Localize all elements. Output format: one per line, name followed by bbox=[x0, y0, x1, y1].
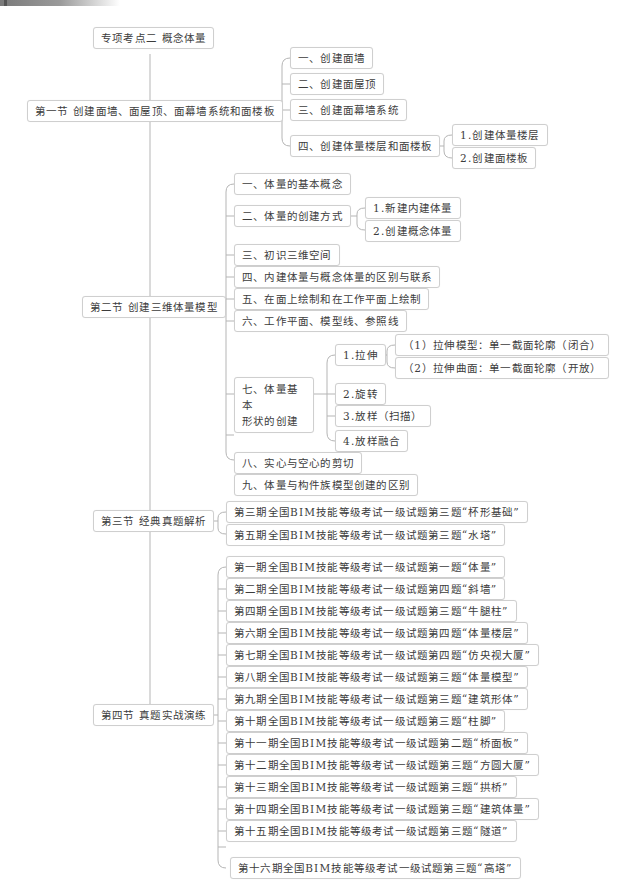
section-1-node: 第一节 创建面墙、面屋顶、面幕墙系统和面楼板 bbox=[27, 100, 283, 122]
s4-item-3-label: 第四期全国BIM技能等级考试一级试题第三题“牛腿柱” bbox=[234, 605, 509, 617]
s2-item-5-label: 五、在面上绘制和在工作平面上绘制 bbox=[242, 293, 421, 305]
s4-item-8-label: 第十期全国BIM技能等级考试一级试题第三题“柱脚” bbox=[234, 715, 497, 727]
s2-item-7-sub-1: 1.拉伸 bbox=[335, 344, 386, 366]
s1-item-4-sub-2-label: 2.创建面楼板 bbox=[460, 152, 528, 164]
s2-item-7-sub-1-b-label: （2）拉伸曲面：单一截面轮廓（开放） bbox=[403, 362, 601, 374]
s1-item-4-sub-2: 2.创建面楼板 bbox=[452, 147, 536, 169]
s4-item-6-label: 第八期全国BIM技能等级考试一级试题第三题“体量模型” bbox=[234, 671, 520, 683]
s4-item-4-label: 第六期全国BIM技能等级考试一级试题第四题“体量楼层” bbox=[234, 627, 520, 639]
s2-item-5: 五、在面上绘制和在工作平面上绘制 bbox=[234, 288, 429, 310]
section-2-node: 第二节 创建三维体量模型 bbox=[82, 296, 226, 318]
s2-item-7-sub-1-a: （1）拉伸模型：单一截面轮廓（闭合） bbox=[395, 334, 609, 356]
s4-item-12-label: 第十四期全国BIM技能等级考试一级试题第三题“建筑体量” bbox=[234, 803, 531, 815]
s2-item-7-label-line2: 形状的创建 bbox=[242, 413, 306, 429]
section-2-label: 第二节 创建三维体量模型 bbox=[90, 301, 218, 313]
s3-item-2: 第五期全国BIM技能等级考试一级试题第三题“水塔” bbox=[226, 524, 505, 546]
s1-item-4-sub-1-label: 1.创建体量楼层 bbox=[460, 129, 540, 141]
s4-item-13: 第十五期全国BIM技能等级考试一级试题第三题“隧道” bbox=[226, 820, 517, 842]
s3-item-1: 第三期全国BIM技能等级考试一级试题第三题“杯形基础” bbox=[226, 501, 528, 523]
s2-item-7-sub-3: 3.放样（扫描） bbox=[335, 405, 431, 427]
s2-item-2-sub-2-label: 2.创建概念体量 bbox=[373, 225, 453, 237]
s2-item-7-sub-1-a-label: （1）拉伸模型：单一截面轮廓（闭合） bbox=[403, 339, 601, 351]
s4-item-6: 第八期全国BIM技能等级考试一级试题第三题“体量模型” bbox=[226, 666, 528, 688]
s4-item-12: 第十四期全国BIM技能等级考试一级试题第三题“建筑体量” bbox=[226, 798, 539, 820]
s4-item-8: 第十期全国BIM技能等级考试一级试题第三题“柱脚” bbox=[226, 710, 505, 732]
s4-item-13-label: 第十五期全国BIM技能等级考试一级试题第三题“隧道” bbox=[234, 825, 509, 837]
section-4-node: 第四节 真题实战演练 bbox=[93, 704, 214, 726]
s4-item-7: 第九期全国BIM技能等级考试一级试题第三题“建筑形体” bbox=[226, 688, 528, 710]
s2-item-2-sub-2: 2.创建概念体量 bbox=[365, 220, 461, 242]
s4-item-14-label: 第十六期全国BIM技能等级考试一级试题第三题“高塔” bbox=[238, 862, 513, 874]
s2-item-2-sub-1-label: 1.新建内建体量 bbox=[373, 202, 453, 214]
s2-item-6: 六、工作平面、模型线、参照线 bbox=[234, 310, 407, 332]
s4-item-7-label: 第九期全国BIM技能等级考试一级试题第三题“建筑形体” bbox=[234, 693, 520, 705]
s4-item-4: 第六期全国BIM技能等级考试一级试题第四题“体量楼层” bbox=[226, 622, 528, 644]
s4-item-14: 第十六期全国BIM技能等级考试一级试题第三题“高塔” bbox=[230, 857, 521, 879]
s4-item-10: 第十二期全国BIM技能等级考试一级试题第三题“方圆大厦” bbox=[226, 754, 539, 776]
s2-item-7-sub-2-label: 2.旋转 bbox=[343, 388, 378, 400]
s4-item-2: 第二期全国BIM技能等级考试一级试题第四题“斜墙” bbox=[226, 578, 505, 600]
s1-item-4-label: 四、创建体量楼层和面楼板 bbox=[298, 140, 432, 152]
s2-item-7-sub-4-label: 4.放样融合 bbox=[343, 435, 400, 447]
s2-item-1-label: 一、体量的基本概念 bbox=[242, 178, 343, 190]
section-3-label: 第三节 经典真题解析 bbox=[101, 515, 206, 527]
s4-item-3: 第四期全国BIM技能等级考试一级试题第三题“牛腿柱” bbox=[226, 600, 517, 622]
s2-item-9: 九、体量与构件族模型创建的区别 bbox=[234, 474, 418, 496]
section-4-label: 第四节 真题实战演练 bbox=[101, 709, 206, 721]
s2-item-7: 七、体量基本 形状的创建 bbox=[234, 377, 314, 433]
s2-item-7-label-line1: 七、体量基本 bbox=[242, 381, 306, 413]
s2-item-7-sub-4: 4.放样融合 bbox=[335, 430, 408, 452]
s2-item-8-label: 八、实心与空心的剪切 bbox=[242, 457, 354, 469]
s4-item-5-label: 第七期全国BIM技能等级考试一级试题第四题“仿央视大厦” bbox=[234, 649, 531, 661]
s1-item-1-label: 一、创建面墙 bbox=[298, 52, 365, 64]
s2-item-3-label: 三、初识三维空间 bbox=[242, 249, 332, 261]
s2-item-1: 一、体量的基本概念 bbox=[234, 173, 351, 195]
root-node: 专项考点二 概念体量 bbox=[93, 27, 214, 49]
s2-item-2-label: 二、体量的创建方式 bbox=[242, 210, 343, 222]
s1-item-4: 四、创建体量楼层和面楼板 bbox=[290, 135, 440, 157]
s4-item-11-label: 第十三期全国BIM技能等级考试一级试题第三题“拱桥” bbox=[234, 781, 509, 793]
s2-item-7-sub-1-label: 1.拉伸 bbox=[343, 349, 378, 361]
s4-item-2-label: 第二期全国BIM技能等级考试一级试题第四题“斜墙” bbox=[234, 583, 497, 595]
root-label: 专项考点二 概念体量 bbox=[101, 32, 206, 44]
s4-item-9-label: 第十一期全国BIM技能等级考试一级试题第二题“桥面板” bbox=[234, 737, 520, 749]
s2-item-4: 四、内建体量与概念体量的区别与联系 bbox=[234, 266, 440, 288]
s2-item-2-sub-1: 1.新建内建体量 bbox=[365, 197, 461, 219]
s4-item-1: 第一期全国BIM技能等级考试一级试题第一题“体量” bbox=[226, 556, 505, 578]
s2-item-7-sub-1-b: （2）拉伸曲面：单一截面轮廓（开放） bbox=[395, 357, 609, 379]
s4-item-9: 第十一期全国BIM技能等级考试一级试题第二题“桥面板” bbox=[226, 732, 528, 754]
s2-item-7-sub-2: 2.旋转 bbox=[335, 383, 386, 405]
s2-item-8: 八、实心与空心的剪切 bbox=[234, 452, 362, 474]
section-1-label: 第一节 创建面墙、面屋顶、面幕墙系统和面楼板 bbox=[35, 105, 275, 117]
s2-item-9-label: 九、体量与构件族模型创建的区别 bbox=[242, 479, 410, 491]
s2-item-4-label: 四、内建体量与概念体量的区别与联系 bbox=[242, 271, 432, 283]
s1-item-1: 一、创建面墙 bbox=[290, 47, 373, 69]
s2-item-2: 二、体量的创建方式 bbox=[234, 205, 351, 227]
s2-item-3: 三、初识三维空间 bbox=[234, 244, 340, 266]
section-3-node: 第三节 经典真题解析 bbox=[93, 510, 214, 532]
s4-item-5: 第七期全国BIM技能等级考试一级试题第四题“仿央视大厦” bbox=[226, 644, 539, 666]
s1-item-3-label: 三、创建面幕墙系统 bbox=[298, 104, 399, 116]
s3-item-2-label: 第五期全国BIM技能等级考试一级试题第三题“水塔” bbox=[234, 529, 497, 541]
s1-item-3: 三、创建面幕墙系统 bbox=[290, 99, 407, 121]
s1-item-2-label: 二、创建面屋顶 bbox=[298, 78, 376, 90]
s3-item-1-label: 第三期全国BIM技能等级考试一级试题第三题“杯形基础” bbox=[234, 506, 520, 518]
s4-item-11: 第十三期全国BIM技能等级考试一级试题第三题“拱桥” bbox=[226, 776, 517, 798]
s2-item-6-label: 六、工作平面、模型线、参照线 bbox=[242, 315, 399, 327]
s1-item-2: 二、创建面屋顶 bbox=[290, 73, 384, 95]
s4-item-1-label: 第一期全国BIM技能等级考试一级试题第一题“体量” bbox=[234, 561, 497, 573]
s2-item-7-sub-3-label: 3.放样（扫描） bbox=[343, 410, 423, 422]
s4-item-10-label: 第十二期全国BIM技能等级考试一级试题第三题“方圆大厦” bbox=[234, 759, 531, 771]
s1-item-4-sub-1: 1.创建体量楼层 bbox=[452, 124, 548, 146]
